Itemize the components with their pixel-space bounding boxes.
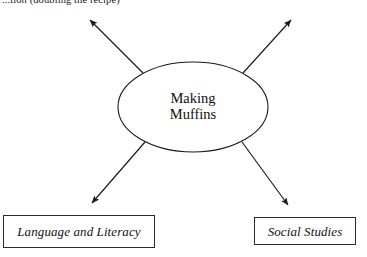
arrow-top-left <box>90 20 143 73</box>
center-node-line-1: Making <box>118 90 268 106</box>
concept-map-page: ...tion (doubling the recipe) Making Muf… <box>0 0 367 257</box>
center-node-line-2: Muffins <box>118 106 268 122</box>
arrow-bottom-right <box>242 142 288 205</box>
topic-box-label: Language and Literacy <box>17 224 140 239</box>
center-node-label: Making Muffins <box>118 90 268 122</box>
topic-box-social-studies[interactable]: Social Studies <box>254 217 356 245</box>
topic-box-label: Social Studies <box>268 224 343 239</box>
arrow-bottom-left <box>92 142 145 203</box>
topic-box-language-and-literacy[interactable]: Language and Literacy <box>3 215 155 248</box>
arrow-top-right <box>243 20 291 73</box>
